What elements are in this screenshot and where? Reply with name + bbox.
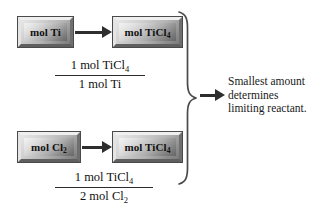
caption-line-2: determines <box>228 89 321 103</box>
box-mol-ticl4-bottom: mol TiCl4 <box>113 132 182 162</box>
box-mol-ticl4-bottom-label: mol TiCl4 <box>124 142 170 153</box>
box-mol-ticl4-top-label: mol TiCl4 <box>124 27 170 38</box>
result-caption: Smallest amount determines limiting reac… <box>228 75 321 116</box>
result-arrow <box>200 94 216 97</box>
conversion-arrow-titanium <box>75 31 103 34</box>
conversion-factor-denominator: 2 mol Cl2 <box>55 188 153 205</box>
conversion-factor-chlorine: 1 mol TiCl4 2 mol Cl2 <box>55 170 153 205</box>
right-curly-brace-icon <box>175 10 201 186</box>
conversion-arrow-chlorine <box>82 146 103 149</box>
caption-line-3: limiting reactant. <box>228 102 321 116</box>
diagram-canvas: mol Ti mol TiCl4 1 mol TiCl4 1 mol Ti mo… <box>0 0 323 214</box>
box-mol-ti-label: mol Ti <box>30 27 61 38</box>
conversion-factor-numerator: 1 mol TiCl4 <box>55 170 153 188</box>
caption-line-1: Smallest amount <box>228 75 321 89</box>
box-mol-ti: mol Ti <box>18 17 73 47</box>
box-mol-cl2: mol Cl2 <box>18 132 80 162</box>
box-mol-ticl4-top: mol TiCl4 <box>113 17 182 47</box>
conversion-factor-denominator: 1 mol Ti <box>55 76 145 93</box>
conversion-factor-titanium: 1 mol TiCl4 1 mol Ti <box>55 58 145 93</box>
box-mol-cl2-label: mol Cl2 <box>31 142 67 153</box>
conversion-factor-numerator: 1 mol TiCl4 <box>55 58 145 76</box>
